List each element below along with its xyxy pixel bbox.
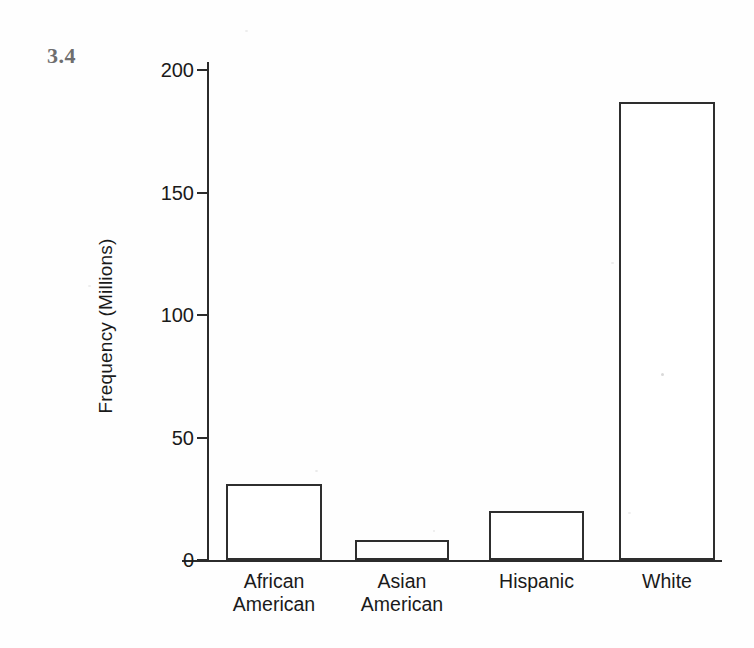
figure-page: 3.4 Frequency (Millions) 050100150200 Af… <box>0 0 754 648</box>
scan-speckle <box>661 373 664 376</box>
y-tick-mark <box>197 559 208 561</box>
y-tick-label: 50 <box>136 426 194 449</box>
y-tick-mark <box>197 69 208 71</box>
x-axis-line <box>182 560 722 562</box>
x-category-label: White <box>577 570 754 593</box>
bar <box>489 511 584 560</box>
y-tick-label: 100 <box>136 304 194 327</box>
scan-speckle <box>88 285 91 287</box>
scan-speckle <box>611 262 614 264</box>
x-category-label-line: White <box>577 570 754 593</box>
bar <box>226 484 322 560</box>
y-tick-mark <box>197 437 208 439</box>
scan-speckle <box>433 530 435 532</box>
y-axis-line <box>207 62 209 562</box>
y-axis-title: Frequency (Millions) <box>95 206 117 446</box>
x-category-label-line: American <box>312 593 492 616</box>
y-tick-mark <box>197 192 208 194</box>
y-tick-mark <box>197 314 208 316</box>
y-tick-label: 200 <box>136 59 194 82</box>
y-tick-label: 150 <box>136 181 194 204</box>
scan-speckle <box>315 470 318 472</box>
bar <box>355 540 449 560</box>
bar <box>619 102 715 560</box>
scan-speckle <box>628 512 631 514</box>
scan-speckle <box>245 30 248 32</box>
y-tick-label: 0 <box>136 549 194 572</box>
bar-chart: Frequency (Millions) 050100150200 Africa… <box>0 0 754 648</box>
